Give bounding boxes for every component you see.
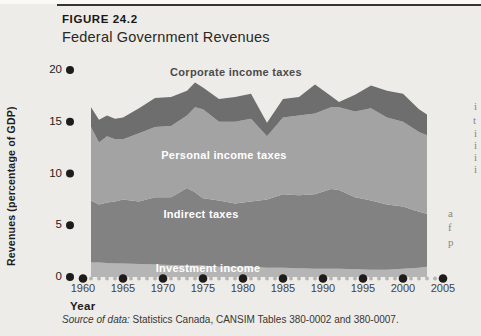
x-axis-minor-dot xyxy=(257,277,261,281)
x-axis-minor-dot xyxy=(209,277,213,281)
x-axis-minor-dot xyxy=(425,277,429,281)
x-axis-minor-dot xyxy=(185,277,189,281)
x-axis-minor-dot xyxy=(313,277,317,281)
x-axis-minor-dot xyxy=(177,277,181,281)
y-axis-tick-dot xyxy=(66,118,74,126)
x-axis-minor-dot xyxy=(409,277,413,281)
x-axis-minor-dot xyxy=(129,277,133,281)
x-tick-label: 1985 xyxy=(263,282,303,294)
x-tick-label: 2005 xyxy=(423,282,463,294)
x-axis-minor-dot xyxy=(265,277,269,281)
x-tick-label: 1995 xyxy=(343,282,383,294)
x-axis-minor-dot xyxy=(305,277,309,281)
series-label-indirect-taxes: Indirect taxes xyxy=(163,208,238,220)
x-tick-label: 2000 xyxy=(383,282,423,294)
x-axis-minor-dot xyxy=(385,277,389,281)
textbook-figure-page: { "figure": { "label": "FIGURE 24.2", "t… xyxy=(0,0,481,336)
x-axis-minor-dot xyxy=(169,277,173,281)
x-axis-minor-dot xyxy=(377,277,381,281)
series-label-corporate-income-taxes: Corporate income taxes xyxy=(170,66,302,78)
x-axis-minor-dot xyxy=(97,277,101,281)
x-axis-minor-dot xyxy=(393,277,397,281)
x-axis-minor-dot xyxy=(345,277,349,281)
cutoff-letter-fragment: f xyxy=(448,221,452,233)
x-axis-minor-dot xyxy=(113,277,117,281)
source-credit-prefix: Source of data: xyxy=(62,314,130,325)
series-label-investment-income: Investment income xyxy=(156,262,261,274)
y-axis-title: Revenues (percentage of GDP) xyxy=(5,90,17,282)
x-axis-minor-dot xyxy=(297,277,301,281)
y-axis-tick-dot xyxy=(66,221,74,229)
series-label-personal-income-taxes: Personal income taxes xyxy=(161,149,287,161)
x-axis-minor-dot xyxy=(337,277,341,281)
y-axis-tick-dot xyxy=(66,66,74,74)
cutoff-letter-fragment: i xyxy=(474,163,477,175)
source-credit-text: Statistics Canada, CANSIM Tables 380-000… xyxy=(130,314,399,325)
x-axis-minor-dot xyxy=(353,277,357,281)
x-tick-label: 1980 xyxy=(223,282,263,294)
y-tick-label: 15 xyxy=(30,115,62,127)
x-tick-label: 1975 xyxy=(183,282,223,294)
x-axis-minor-dot xyxy=(153,277,157,281)
x-axis-minor-dot xyxy=(225,277,229,281)
cutoff-letter-fragment: i xyxy=(474,127,477,139)
cutoff-letter-fragment: i xyxy=(474,151,477,163)
x-axis-minor-dot xyxy=(193,277,197,281)
x-tick-label: 1960 xyxy=(63,282,103,294)
revenue-stacked-area-chart: Revenues (percentage of GDP) Year Invest… xyxy=(0,0,481,336)
x-axis-minor-dot xyxy=(137,277,141,281)
cutoff-letter-fragment: t xyxy=(473,114,476,126)
x-axis-minor-dot xyxy=(233,277,237,281)
y-tick-label: 20 xyxy=(30,63,62,75)
y-tick-label: 0 xyxy=(30,270,62,282)
x-axis-minor-dot xyxy=(289,277,293,281)
x-axis-minor-dot xyxy=(217,277,221,281)
cutoff-letter-fragment: i xyxy=(474,139,477,151)
x-axis-minor-dot xyxy=(329,277,333,281)
x-tick-label: 1965 xyxy=(103,282,143,294)
x-axis-minor-dot xyxy=(89,277,93,281)
x-axis-minor-dot xyxy=(369,277,373,281)
source-credit: Source of data: Statistics Canada, CANSI… xyxy=(62,314,462,325)
cutoff-letter-fragment: a xyxy=(448,207,453,219)
x-axis-minor-dot xyxy=(249,277,253,281)
x-axis-minor-dot xyxy=(145,277,149,281)
x-axis-minor-dot xyxy=(105,277,109,281)
x-axis-title: Year xyxy=(70,300,96,312)
x-axis-minor-dot xyxy=(273,277,277,281)
x-axis-minor-dot xyxy=(433,277,437,281)
y-tick-label: 10 xyxy=(30,167,62,179)
x-tick-label: 1990 xyxy=(303,282,343,294)
cutoff-letter-fragment: i xyxy=(474,100,477,112)
x-axis-minor-dot xyxy=(417,277,421,281)
y-axis-tick-dot xyxy=(66,273,74,281)
x-tick-label: 1970 xyxy=(143,282,183,294)
cutoff-letter-fragment: p xyxy=(448,236,454,248)
y-axis-tick-dot xyxy=(66,170,74,178)
y-tick-label: 5 xyxy=(30,218,62,230)
